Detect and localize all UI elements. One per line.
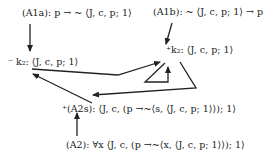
node-k2-minus: ⁻ k₂: ⟨J, c, p; 1⟩	[8, 56, 78, 67]
node-a2: (A2): ∀x ⟨J, c, (p →~⟨x, ⟨J, c, p; 1⟩⟩);…	[66, 139, 245, 150]
node-a2s: ⁺(A2s): ⟨J, c, (p →~⟨s, ⟨J, c, p; 1⟩⟩); …	[62, 103, 236, 114]
node-a1b: (A1b): ~ ⟨J, c, p; 1⟩ → p	[153, 6, 263, 17]
edge-a2s-to-k2minus	[33, 74, 92, 103]
node-a1a: (A1a): p → ~ ⟨J, c, p; 1⟩	[22, 7, 132, 18]
node-k2-plus: ⁺k₂: ⟨J, c, p; 1⟩	[166, 44, 233, 55]
diagram-canvas: (A1a): p → ~ ⟨J, c, p; 1⟩ (A1b): ~ ⟨J, c…	[0, 0, 271, 163]
edge-a1b-to-k2plus	[166, 23, 172, 44]
